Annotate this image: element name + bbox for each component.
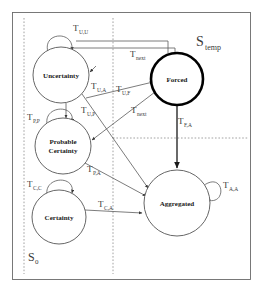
- transition-label-t-aa: T A,A: [223, 180, 238, 192]
- state-diagram-figure: Uncertainty Probable Certainty Certainty…: [0, 0, 263, 292]
- transition-subscript-t-uf: U,F: [122, 90, 130, 96]
- transition-subscript-t-pa: P,A: [93, 170, 101, 176]
- transition-label-t-next-mid: T next: [131, 105, 147, 117]
- transition-label-t-pp: T P,P: [27, 112, 40, 124]
- region-label-s-temp: S temp: [196, 34, 221, 52]
- state-node-forced[interactable]: Forced: [151, 53, 203, 105]
- transition-subscript-t-ua: U,A: [97, 87, 106, 93]
- state-node-uncertainty[interactable]: Uncertainty: [33, 47, 89, 103]
- state-circle-probable-certainty: [35, 118, 91, 174]
- region-subscript-s-zero: 0: [35, 258, 39, 266]
- region-base-s-temp: S: [196, 34, 204, 49]
- transition-label-t-ca: T C,A: [98, 199, 113, 211]
- state-node-certainty[interactable]: Certainty: [32, 190, 86, 244]
- transition-subscript-t-cc: C,C: [33, 185, 42, 191]
- transition-subscript-t-next-mid: next: [137, 111, 147, 117]
- transition-subscript-t-pp: P,P: [33, 118, 40, 124]
- state-node-probable-certainty[interactable]: Probable Certainty: [35, 118, 91, 174]
- transition-label-t-next-top: T next: [130, 49, 146, 61]
- edge-uncertainty-forced-top-b: [70, 48, 175, 53]
- region-subscript-s-temp: temp: [205, 43, 221, 52]
- transition-subscript-t-next-top: next: [136, 55, 146, 61]
- edge-into-uncertainty: [90, 66, 96, 72]
- state-node-aggregated[interactable]: Aggregated: [144, 170, 210, 236]
- state-label-uncertainty: Uncertainty: [43, 72, 79, 80]
- transition-subscript-t-fa: F,A: [184, 122, 192, 128]
- transition-label-t-pa: T P,A: [87, 164, 101, 176]
- edge-uncertainty-forced-top-a: [76, 41, 168, 53]
- transition-label-t-fa: T F,A: [178, 116, 192, 128]
- edge-probable-aggregated: [85, 163, 146, 196]
- state-label-forced: Forced: [167, 76, 188, 84]
- transition-subscript-t-up: U,P: [87, 111, 95, 117]
- state-label-certainty: Certainty: [45, 214, 74, 222]
- transition-label-t-uu: T U,U: [73, 23, 88, 35]
- diagram-canvas: Uncertainty Probable Certainty Certainty…: [0, 0, 263, 292]
- region-base-s-zero: S: [28, 250, 35, 264]
- transition-subscript-t-ca: C,A: [104, 205, 113, 211]
- transition-label-t-uf: T U,F: [116, 84, 130, 96]
- region-label-s-zero: S 0: [28, 250, 39, 266]
- state-label-probable-certainty-line2: Certainty: [49, 147, 78, 155]
- state-label-aggregated: Aggregated: [160, 200, 195, 208]
- transition-subscript-t-uu: U,U: [79, 29, 88, 35]
- edge-certainty-aggregated: [85, 210, 142, 213]
- transition-label-t-cc: T C,C: [27, 179, 42, 191]
- state-label-probable-certainty-line1: Probable: [49, 138, 76, 146]
- transition-label-t-up: T U,P: [81, 105, 95, 117]
- transition-subscript-t-aa: A,A: [229, 186, 238, 192]
- transition-label-t-ua: T U,A: [91, 81, 106, 93]
